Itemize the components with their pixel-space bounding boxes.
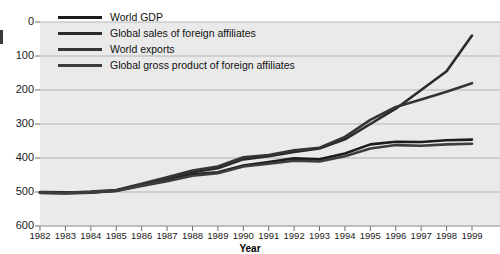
legend-item-world-gdp: World GDP: [58, 9, 358, 25]
legend-item-label: World GDP: [110, 11, 163, 23]
x-axis-tick-label: 1999: [455, 231, 489, 241]
y-axis-tick-label: 200: [0, 84, 34, 95]
x-axis-title: Year: [0, 243, 500, 254]
chart-legend: World GDP Global sales of foreign affili…: [58, 9, 358, 73]
y-axis-tick-label: 400: [0, 152, 34, 163]
y-axis-tick-label: 500: [0, 186, 34, 197]
legend-line-swatch: [58, 64, 102, 67]
y-axis-tick-label: 300: [0, 118, 34, 129]
legend-item-world-exports: World exports: [58, 41, 358, 57]
legend-line-swatch: [58, 32, 102, 35]
legend-line-swatch: [58, 16, 102, 19]
series-line-4: [40, 144, 472, 193]
legend-item-label: Global gross product of foreign affiliat…: [110, 59, 295, 71]
legend-item-label: Global sales of foreign affiliates: [110, 27, 256, 39]
y-axis-tick-label: 100: [0, 50, 34, 61]
legend-item-label: World exports: [110, 43, 175, 55]
legend-item-global-gross-product-of-foreign-affiliates: Global gross product of foreign affiliat…: [58, 57, 358, 73]
legend-line-swatch: [58, 48, 102, 51]
legend-item-global-sales-of-foreign-affiliates: Global sales of foreign affiliates: [58, 25, 358, 41]
y-axis-tick-label: 0: [0, 16, 34, 27]
line-chart-figure: 6005004003002001000 19821983198419851986…: [0, 0, 500, 254]
y-axis-ticks: [35, 22, 40, 226]
